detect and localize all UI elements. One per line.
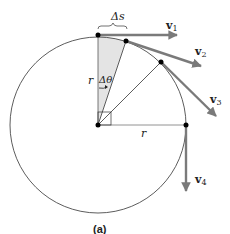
radius-horizontal-label: r bbox=[141, 127, 147, 140]
vector-v2-arrow bbox=[126, 41, 201, 66]
vector-v3-arrow bbox=[161, 62, 216, 116]
vector-v4-label: v4 bbox=[194, 173, 207, 187]
point-4 bbox=[184, 123, 189, 128]
arc-length-brace bbox=[98, 23, 127, 29]
arc-length-label: Δs bbox=[110, 10, 125, 23]
circular-motion-diagram: Δs r Δθ r v1 v2 v3 v4 (a) bbox=[0, 0, 230, 234]
vector-v2-label: v2 bbox=[194, 45, 207, 59]
center-point bbox=[96, 123, 101, 128]
vector-v3-label: v3 bbox=[209, 93, 222, 107]
figure-caption: (a) bbox=[93, 223, 107, 234]
point-3 bbox=[159, 60, 164, 65]
vector-v1-label: v1 bbox=[165, 19, 178, 33]
radius-vertical-label: r bbox=[88, 74, 94, 87]
point-2 bbox=[124, 39, 129, 44]
point-1 bbox=[96, 33, 101, 38]
angle-label: Δθ bbox=[98, 74, 112, 85]
